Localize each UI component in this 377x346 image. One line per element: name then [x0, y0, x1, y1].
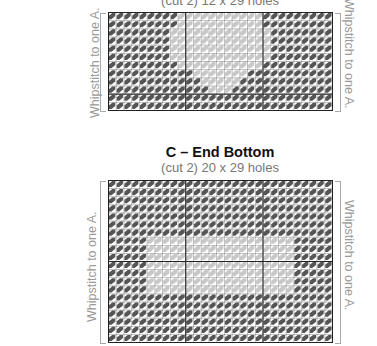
piece-c-left-note: Whipstitch to one A.	[85, 212, 99, 322]
piece-b-subtitle: (cut 2) 12 x 29 holes	[108, 0, 332, 8]
piece-c-left-bracket	[100, 181, 106, 344]
piece-c-subtitle: (cut 2) 20 x 29 holes	[108, 160, 332, 175]
piece-b-right-bracket	[335, 13, 341, 112]
piece-c-grid	[108, 180, 333, 343]
piece-b-grid	[108, 12, 333, 111]
piece-c-right-bracket	[335, 181, 341, 344]
piece-c-title: C – End Bottom	[108, 144, 332, 160]
piece-b-left-note: Whipstitch to one A.	[88, 8, 102, 118]
piece-b-right-note: Whipstitch to one A.	[342, 0, 356, 108]
piece-c-right-note: Whipstitch to one A.	[342, 200, 356, 310]
